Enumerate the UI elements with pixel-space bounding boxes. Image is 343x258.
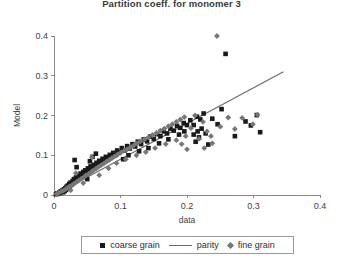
data-point-coarse-grain [137,149,142,154]
x-axis-title: data [179,215,196,225]
x-tick-label: 0.3 [247,201,260,211]
data-point-coarse-grain [210,116,215,121]
data-point-fine-grain [184,146,190,152]
data-point-fine-grain [179,141,185,147]
data-point-fine-grain [225,115,231,121]
data-point-fine-grain [208,133,214,139]
data-point-coarse-grain [223,52,228,57]
data-point-fine-grain [163,141,169,147]
data-point-fine-grain [152,145,158,151]
x-tick-label: 0.4 [314,201,327,211]
y-axis-title: Model [12,104,22,127]
legend-item-parity: parity [169,240,219,250]
data-point-coarse-grain [201,111,206,116]
data-point-coarse-grain [126,153,131,158]
data-point-coarse-grain [72,158,77,163]
data-point-coarse-grain [178,126,183,131]
y-tick-label: 0.4 [35,31,48,41]
line-marker-icon [169,245,192,246]
data-point-fine-grain [114,160,120,166]
y-tick-label: 0 [43,190,48,200]
y-tick-label: 0.2 [35,111,48,121]
data-point-coarse-grain [182,129,187,134]
data-point-fine-grain [183,133,189,139]
x-tick-label: 0.2 [181,201,194,211]
data-point-fine-grain [214,33,220,39]
data-point-fine-grain [96,172,102,178]
chart-legend: coarse grain parity fine grain [81,236,294,254]
data-point-coarse-grain [146,146,151,151]
chart-figure: Partition coeff. for monomer 3 00.10.20.… [0,0,343,258]
data-point-coarse-grain [74,165,79,170]
data-point-coarse-grain [233,134,238,139]
data-point-coarse-grain [166,137,171,142]
data-point-fine-grain [232,126,238,132]
legend-label-parity: parity [197,240,219,250]
legend-item-fine-grain: fine grain [228,240,275,250]
data-point-coarse-grain [258,130,263,135]
data-point-coarse-grain [158,134,163,139]
data-point-coarse-grain [195,129,200,134]
data-point-coarse-grain [165,131,170,136]
data-point-coarse-grain [94,151,99,156]
diamond-marker-icon [227,241,234,248]
data-point-coarse-grain [157,141,162,146]
data-point-coarse-grain [177,132,182,137]
data-point-coarse-grain [243,119,248,124]
legend-item-coarse-grain: coarse grain [100,240,160,250]
data-point-coarse-grain [188,118,193,123]
x-tick-label: 0 [51,201,56,211]
legend-label-coarse-grain: coarse grain [110,240,160,250]
scatter-plot-canvas: 00.10.20.30.400.10.20.30.4dataModel [0,0,343,258]
data-point-coarse-grain [171,128,176,133]
x-tick-label: 0.1 [114,201,127,211]
legend-label-fine-grain: fine grain [238,240,275,250]
data-point-coarse-grain [185,123,190,128]
data-points-group [54,33,263,197]
data-point-coarse-grain [199,126,204,131]
square-marker-icon [100,243,105,248]
y-tick-label: 0.3 [35,71,48,81]
data-point-fine-grain [173,137,179,143]
data-point-coarse-grain [191,132,196,137]
data-point-coarse-grain [219,107,224,112]
y-tick-label: 0.1 [35,150,48,160]
